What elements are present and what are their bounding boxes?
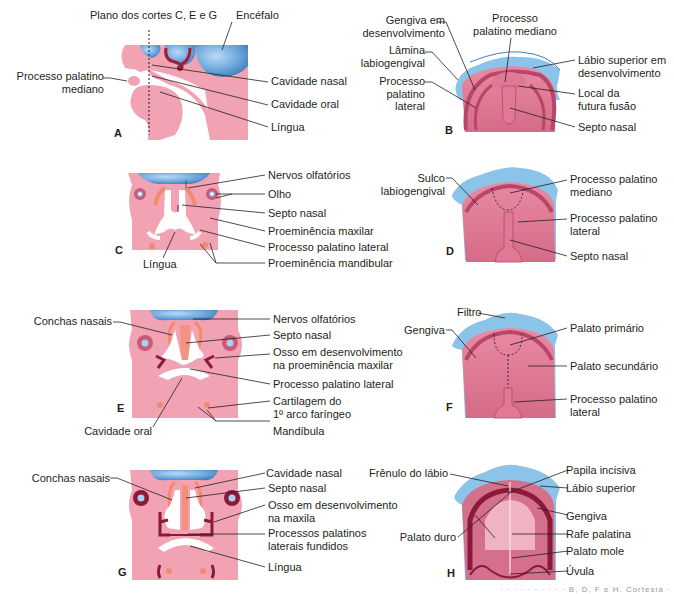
label-nasal-conchae-e: Conchas nasais [20,315,112,328]
label-nasal-cavity-a: Cavidade nasal [271,75,347,88]
label-lateral-palatine-d: Processo palatino lateral [570,212,657,237]
label-nasal-septum-e: Septo nasal [273,329,331,342]
label-nasal-septum-c: Septo nasal [268,207,326,220]
label-median-palatine-b: Processo palatino mediano [465,12,565,37]
label-developing-bone-maxilla: Osso em desenvolvimento na maxila [268,499,398,524]
label-incisive-papilla: Papila incisiva [566,464,636,477]
panel-e-drawing [129,310,242,418]
panel-a-drawing [122,30,249,140]
label-mandibular-prominence: Proeminência mandibular [268,257,393,270]
label-gum-h: Gengiva [566,510,607,523]
label-nasal-septum-g: Septo nasal [268,482,326,495]
label-uvula: Úvula [566,565,594,578]
panel-letter-h: H [447,567,455,579]
label-fusion-site: Local da futura fusão [578,87,636,112]
panel-g-drawing [129,470,242,580]
label-median-palatine-d: Processo palatino mediano [570,173,657,198]
label-nasal-conchae-g: Conchas nasais [18,472,110,485]
label-primary-palate: Palato primário [570,322,644,335]
label-lip-frenulum: Frênulo do lábio [360,467,448,480]
panel-letter-c: C [115,244,123,256]
label-tongue-c: Língua [143,258,177,271]
panel-letter-b: B [445,124,453,136]
label-nasal-septum-b: Septo nasal [578,121,636,134]
label-hard-palate: Palato duro [380,531,456,544]
label-cut-plane: Plano dos cortes C, E e G [90,9,217,22]
label-tongue-g: Língua [268,561,302,574]
label-soft-palate: Palato mole [566,545,624,558]
panel-letter-g: G [118,566,127,578]
label-developing-bone-maxillary: Osso em desenvolvimento na proeminência … [273,346,403,371]
faint-caption: · · · · · · · · · · B, D, F e H. Cortesi… [500,585,671,594]
label-oral-cavity-a: Cavidade oral [271,98,339,111]
label-pharyngeal-cartilage: Cartilagem do 1º arco faríngeo [273,395,351,420]
panel-letter-a: A [114,127,122,139]
label-philtrum: Filtro [457,306,481,319]
label-labiogingival-lamina: Lâmina labiogengival [355,44,425,69]
label-brain: Encéfalo [236,9,279,22]
label-palatine-raphe: Rafe palatina [566,528,631,541]
label-developing-gum: Gengiva em desenvolvimento [355,14,445,39]
label-maxillary-prominence: Proeminência maxilar [268,225,374,238]
panel-letter-e: E [117,402,124,414]
label-olfactory-nerves-e: Nervos olfatórios [273,313,356,326]
label-labiogingival-groove: Sulco labiogengival [380,172,445,197]
label-fused-lateral-processes: Processos palatinos laterais fundidos [268,527,366,552]
label-upper-lip-h: Lábio superior [566,482,636,495]
panel-h-drawing [454,465,560,580]
label-lateral-palatine-c: Processo palatino lateral [268,241,388,254]
palate-development-figure: Plano dos cortes C, E e G Encéfalo Proce… [0,0,674,594]
label-gum-f: Gengiva [380,324,445,337]
label-developing-upper-lip: Lábio superior em desenvolvimento [578,54,666,79]
label-nasal-cavity-g: Cavidade nasal [266,467,342,480]
label-nasal-septum-d: Septo nasal [570,250,628,263]
label-lateral-palatine-b: Processo palatino lateral [355,75,425,113]
panel-letter-d: D [446,245,454,257]
label-median-palatine-a: Processo palatino mediano [14,70,104,95]
label-eye: Olho [268,188,291,201]
panel-d-drawing [452,167,558,262]
panel-letter-f: F [446,401,453,413]
label-oral-cavity-e: Cavidade oral [60,425,152,438]
label-tongue-a: Língua [271,121,305,134]
label-secondary-palate: Palato secundário [570,360,658,373]
label-lateral-palatine-e: Processo palatino lateral [273,378,393,391]
label-olfactory-nerves-c: Nervos olfatórios [268,169,351,182]
label-lateral-palatine-f: Processo palatino lateral [570,393,657,418]
panel-f-drawing [452,313,558,418]
label-mandible: Mandíbula [273,425,324,438]
